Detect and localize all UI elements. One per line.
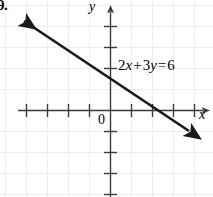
y-axis xyxy=(104,12,117,197)
y-axis-label: y xyxy=(89,0,95,14)
coordinate-plane-svg xyxy=(0,0,213,197)
x-axis-label: x xyxy=(199,108,205,122)
equation-constant: 6 xyxy=(167,57,175,73)
equation-plus: + xyxy=(132,57,142,73)
equation-equals: = xyxy=(157,57,167,73)
graph-figure: 9. y x 0 2x+3y=6 xyxy=(0,0,213,197)
plotted-line xyxy=(24,21,189,131)
origin-label: 0 xyxy=(98,113,105,127)
equation-var-y: y xyxy=(150,57,157,73)
equation-coeff-x: 2 xyxy=(118,57,126,73)
item-number: 9. xyxy=(0,0,7,13)
background-grid xyxy=(0,0,213,197)
equation-label: 2x+3y=6 xyxy=(118,58,175,73)
